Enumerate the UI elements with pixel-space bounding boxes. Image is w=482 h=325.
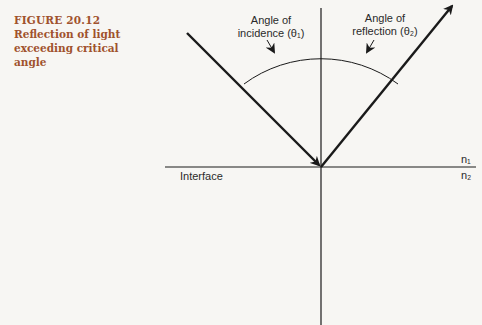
interface-label: Interface — [180, 170, 223, 183]
reflection-diagram — [0, 0, 482, 325]
reflection-pointer — [367, 40, 374, 52]
reflection-label: Angle of reflection (θ₂) — [340, 12, 430, 38]
n1-label: n₁ — [461, 153, 471, 166]
n2-label: n₂ — [461, 169, 471, 182]
incidence-pointer — [267, 40, 274, 52]
incident-ray — [187, 33, 319, 165]
incidence-label: Angle of incidence (θ₁) — [226, 14, 316, 40]
